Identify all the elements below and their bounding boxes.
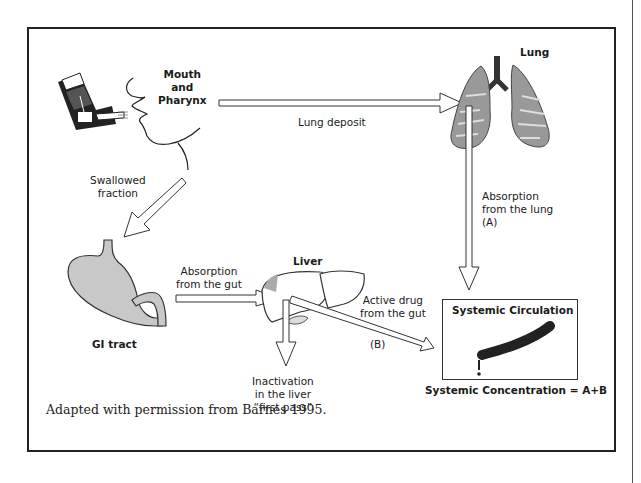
absorption-lung-line2: from the lung — [482, 203, 553, 216]
active-drug-line1: Active drug — [360, 294, 426, 307]
mouth-label-line2: and — [158, 81, 207, 94]
swallowed-fraction-label: Swallowed fraction — [90, 174, 146, 200]
inhaler-icon — [58, 73, 128, 130]
absorption-lung-line1: Absorption — [482, 190, 553, 203]
absorption-gut-line1: Absorption — [176, 265, 242, 278]
absorption-lung-label: Absorption from the lung (A) — [482, 190, 553, 229]
absorption-lung-line3: (A) — [482, 216, 553, 229]
absorption-gut-line2: from the gut — [176, 278, 242, 291]
liver-label: Liver — [293, 255, 322, 268]
inactivation-line1: Inactivation — [252, 375, 314, 388]
stomach-icon — [68, 240, 166, 326]
inactivation-line2: in the liver — [252, 388, 314, 401]
figure-caption: Adapted with permission from Barnes 1995… — [46, 402, 326, 417]
active-drug-line2: from the gut — [360, 307, 426, 320]
systemic-concentration-label: Systemic Concentration = A+B — [425, 384, 607, 397]
mouth-label: Mouth and Pharynx — [158, 68, 207, 107]
swallowed-line1: Swallowed — [90, 174, 146, 187]
active-drug-tag: (B) — [370, 338, 385, 351]
lung-deposit-label: Lung deposit — [298, 116, 366, 129]
mouth-label-line3: Pharynx — [158, 94, 207, 107]
active-drug-label: Active drug from the gut — [360, 294, 426, 320]
lung-deposit-arrow — [219, 93, 462, 113]
mouth-label-line1: Mouth — [158, 68, 207, 81]
swallowed-line2: fraction — [90, 187, 146, 200]
gi-tract-label: GI tract — [92, 338, 137, 351]
lung-label: Lung — [520, 46, 549, 59]
systemic-circulation-label: Systemic Circulation — [452, 304, 573, 317]
absorption-gut-label: Absorption from the gut — [176, 265, 242, 291]
